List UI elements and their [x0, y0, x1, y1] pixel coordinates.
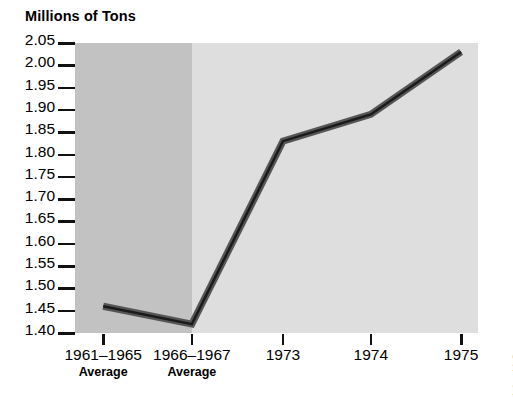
chart-title: Millions of Tons — [25, 8, 136, 24]
y-axis: 2.052.001.951.901.851.801.751.701.651.60… — [0, 43, 75, 333]
y-axis-tick-label: 1.80 — [25, 144, 55, 159]
x-axis-tick-label: 1975 — [444, 346, 478, 363]
x-axis-tick-label: 1966–1967 — [153, 346, 231, 363]
y-axis-tick-label: 1.90 — [25, 99, 55, 114]
y-axis-tick-label: 1.40 — [25, 322, 55, 337]
x-axis-tick-label: 1961–1965 — [64, 346, 142, 363]
x-axis-tick-mark — [282, 334, 285, 345]
y-axis-tick-mark — [58, 332, 75, 335]
y-axis-tick-label: 1.55 — [25, 255, 55, 270]
x-axis-tick-mark — [460, 334, 463, 345]
x-axis-tick-label: 1973 — [266, 346, 300, 363]
y-axis-tick-label: 1.50 — [25, 277, 55, 292]
y-axis-tick-label: 1.95 — [25, 77, 55, 92]
y-axis-tick-label: 1.75 — [25, 166, 55, 181]
y-axis-tick-label: 1.60 — [25, 233, 55, 248]
y-axis-tick-label: 2.00 — [25, 54, 55, 69]
y-axis-tick-mark — [58, 243, 75, 246]
y-axis-tick-mark — [58, 109, 75, 112]
y-axis-tick-label: 1.85 — [25, 121, 55, 136]
y-axis-tick-mark — [58, 176, 75, 179]
y-axis-tick-label: 1.65 — [25, 210, 55, 225]
series-line-group — [75, 43, 478, 333]
y-axis-tick-mark — [58, 265, 75, 268]
y-axis-tick-mark — [58, 287, 75, 290]
y-axis-tick-mark — [58, 154, 75, 157]
y-axis-tick-mark — [58, 64, 75, 67]
y-axis-tick-mark — [58, 87, 75, 90]
series-line-shadow — [103, 52, 461, 324]
y-axis-tick-label: 1.45 — [25, 300, 55, 315]
y-axis-tick-mark — [58, 310, 75, 313]
chart-figure: Millions of Tons 2.052.001.951.901.851.8… — [0, 0, 513, 397]
y-axis-tick-mark — [58, 42, 75, 45]
x-axis-tick-label: 1974 — [354, 346, 388, 363]
x-axis-tick-mark — [102, 334, 105, 345]
plot-area — [75, 43, 478, 333]
y-axis-tick-mark — [58, 131, 75, 134]
x-axis-tick-sublabel: Average — [79, 365, 128, 379]
y-axis-tick-mark — [58, 198, 75, 201]
x-axis-tick-sublabel: Average — [167, 365, 216, 379]
x-axis-tick-mark — [191, 334, 194, 345]
x-axis-tick-mark — [370, 334, 373, 345]
x-axis: 1961–1965Average1966–1967Average19731974… — [75, 333, 478, 393]
y-axis-tick-label: 1.70 — [25, 188, 55, 203]
y-axis-tick-label: 2.05 — [25, 32, 55, 47]
y-axis-tick-mark — [58, 220, 75, 223]
